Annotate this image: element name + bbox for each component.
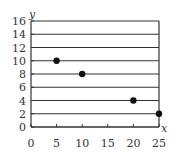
y-tick-6: 6: [19, 81, 26, 94]
x-axis-label: x: [161, 122, 168, 135]
y-tick-4: 4: [19, 95, 26, 108]
x-tick-0: 0: [28, 137, 35, 150]
y-axis-label: y: [28, 8, 36, 21]
data-point: [156, 111, 162, 117]
data-point: [53, 58, 59, 64]
scatter-chart: 0246810121416 0510152025 y x: [0, 0, 174, 162]
x-tick-5: 5: [53, 137, 60, 150]
y-tick-2: 2: [19, 108, 26, 121]
gridlines: [31, 21, 159, 127]
y-tick-0: 0: [19, 121, 26, 134]
y-tick-10: 10: [12, 55, 26, 68]
x-tick-labels: 0510152025: [28, 137, 167, 150]
y-tick-16: 16: [12, 15, 26, 28]
y-tick-14: 14: [12, 28, 26, 41]
x-tick-25: 25: [152, 137, 166, 150]
x-tick-10: 10: [75, 137, 89, 150]
y-tick-12: 12: [12, 42, 26, 55]
data-point: [79, 71, 85, 77]
y-tick-labels: 0246810121416: [12, 15, 26, 134]
x-tick-15: 15: [101, 137, 115, 150]
y-tick-8: 8: [19, 68, 26, 81]
x-tick-20: 20: [126, 137, 140, 150]
data-point: [130, 97, 136, 103]
